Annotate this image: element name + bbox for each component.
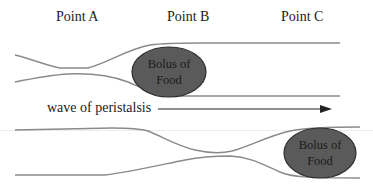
bolus-icon (132, 47, 206, 97)
bottom-bolus-line1: Bolus of (299, 138, 343, 152)
bottom-bolus: Bolus of Food (284, 128, 356, 178)
top-bolus: Bolus of Food (132, 47, 206, 97)
wave-of-peristalsis-label: wave of peristalsis (47, 100, 151, 116)
top-esophagus: Bolus of Food (15, 43, 340, 97)
bolus-icon (284, 128, 356, 178)
peristalsis-diagram: Bolus of Food Bolus of Food (0, 0, 373, 194)
bottom-esophagus: Bolus of Food (15, 127, 360, 178)
top-bolus-line2: Food (156, 73, 182, 87)
arrow-head-icon (320, 105, 332, 113)
wave-arrow (158, 105, 332, 113)
bottom-bolus-line2: Food (307, 154, 333, 168)
top-bolus-line1: Bolus of (148, 57, 192, 71)
